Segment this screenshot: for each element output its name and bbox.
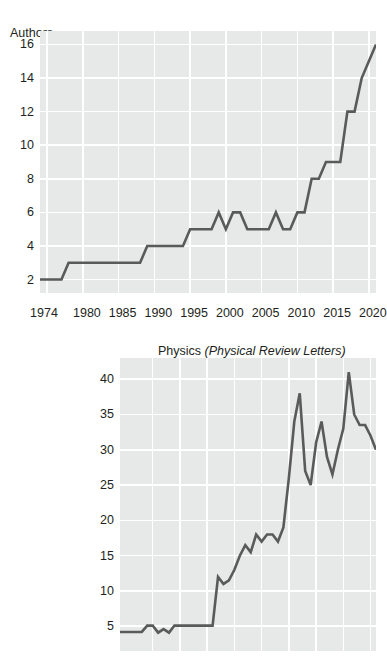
y-tick-label: 30 [86,444,114,457]
x-tick-label: 2000 [210,307,250,320]
plot-area-physics [120,358,376,651]
chart-title-physics: Physics (Physical Review Letters) [158,344,346,358]
data-line-physics [120,372,376,633]
y-tick-label: 14 [6,72,34,85]
y-tick-label: 6 [6,206,34,219]
y-tick-label: 4 [6,240,34,253]
y-tick-label: 10 [6,139,34,152]
chart-title-physics-plain: Physics [158,344,201,358]
y-tick-label: 5 [86,620,114,633]
x-tick-label: 2015 [317,307,357,320]
y-tick-label: 20 [86,514,114,527]
y-tick-label: 8 [6,173,34,186]
x-tick-label: 1990 [138,307,178,320]
plot-area-biology [40,31,376,293]
data-line-biology [40,44,376,279]
x-tick-label: 1974 [24,307,64,320]
x-tick-label: 1980 [67,307,107,320]
x-tick-label: 2005 [246,307,286,320]
y-tick-label: 12 [6,106,34,119]
y-tick-label: 15 [86,550,114,563]
x-tick-label: 1995 [174,307,214,320]
chart-biology: Authors Biology (Cell) 246810121416 1974… [0,0,387,340]
x-tick-label: 1985 [103,307,143,320]
y-tick-label: 2 [6,274,34,287]
plot-svg-biology [40,31,376,293]
chart-physics: Physics (Physical Review Letters) 510152… [0,340,387,659]
chart-title-physics-journal: (Physical Review Letters) [205,344,346,358]
y-tick-label: 25 [86,479,114,492]
y-tick-label: 40 [86,373,114,386]
gridlines-physics [120,358,376,651]
x-tick-label: 2010 [281,307,321,320]
y-tick-label: 10 [86,585,114,598]
y-tick-label: 16 [6,38,34,51]
plot-svg-physics [120,358,376,651]
y-tick-label: 35 [86,408,114,421]
x-tick-label: 2020 [353,307,387,320]
